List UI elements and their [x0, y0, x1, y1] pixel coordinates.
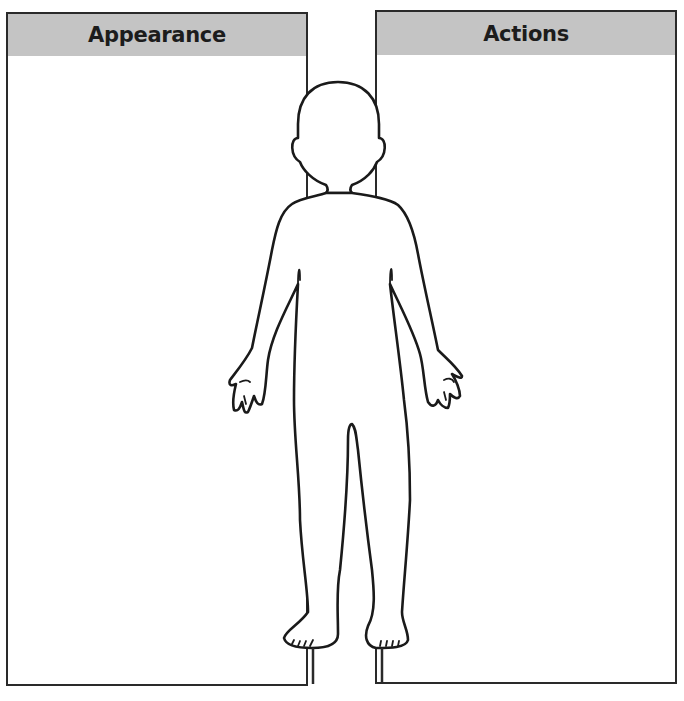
actions-panel-header: Actions: [377, 12, 675, 55]
appearance-panel-header: Appearance: [8, 14, 306, 56]
actions-writing-area[interactable]: [377, 55, 675, 682]
appearance-writing-area[interactable]: [8, 56, 306, 684]
actions-title: Actions: [483, 22, 569, 46]
actions-panel: Actions: [375, 10, 677, 684]
appearance-title: Appearance: [88, 23, 226, 47]
appearance-panel: Appearance: [6, 12, 308, 686]
